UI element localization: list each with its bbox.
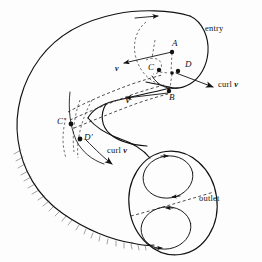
- entry-label: entry: [205, 24, 223, 33]
- outlet-label: outlet: [199, 194, 220, 203]
- curl-left-word: curl: [107, 145, 121, 155]
- curl-vector-arrow-right: [176, 73, 213, 87]
- vertex-d-label: D: [185, 60, 192, 69]
- vortex-loop-upper: [140, 152, 197, 202]
- figure-canvas: entry outlet A B C D C′ D′ v v curl v cu…: [0, 0, 262, 262]
- tube-shading-hatch: [14, 150, 146, 250]
- curl-v-right-label: curl v: [218, 80, 238, 89]
- tube-outer-edge: [17, 11, 190, 243]
- outlet-group: [122, 145, 224, 260]
- vertex-c-label: C: [148, 63, 154, 72]
- vertex-d-prime-label: D′: [84, 133, 93, 142]
- vertex-dot-c: [157, 68, 161, 72]
- vertex-b-label: B: [169, 93, 175, 102]
- curl-right-word: curl: [218, 79, 232, 89]
- vertex-c-prime-label: C′: [57, 117, 65, 126]
- vertex-dot-c-prime: [69, 122, 74, 127]
- edge-left-vertical: [152, 40, 155, 58]
- curl-v-left-label: curl v: [107, 146, 127, 155]
- tube-outline: [17, 11, 208, 246]
- circuit-abcd: [124, 16, 213, 98]
- streamline-middle: [70, 85, 164, 120]
- vertex-dot-center: [170, 71, 174, 75]
- vortex-arrow-upper-bottom: [172, 196, 180, 197]
- vertex-dot-d: [176, 69, 180, 73]
- curl-left-vector: v: [123, 145, 127, 155]
- edge-vertical-lower: [170, 74, 172, 88]
- curl-right-vector: v: [234, 79, 238, 89]
- vertex-d-prime-mark: ′: [91, 132, 93, 142]
- edge-a-vertical: [171, 53, 172, 72]
- vertex-c-prime-mark: ′: [63, 116, 65, 126]
- velocity-label-lower: v: [126, 97, 130, 105]
- vertex-dot-d-prime: [78, 137, 83, 142]
- velocity-label-upper: v: [115, 65, 119, 73]
- tube-fold-s-curve: [102, 104, 147, 146]
- left-dashed-strand-2: [78, 100, 92, 158]
- flow-direction-arrow-top: [135, 16, 158, 18]
- outlet-ellipse: [122, 145, 224, 260]
- cross-section-dashed-arc: [134, 22, 162, 85]
- entry-mouth-arc: [169, 16, 208, 88]
- flow-tube-illustration: [0, 0, 262, 262]
- vertex-dot-a: [170, 50, 174, 54]
- vertex-a-label: A: [172, 39, 178, 48]
- center-tick-horizontal: [160, 72, 168, 73]
- vertex-d-prime-letter: D: [84, 132, 91, 142]
